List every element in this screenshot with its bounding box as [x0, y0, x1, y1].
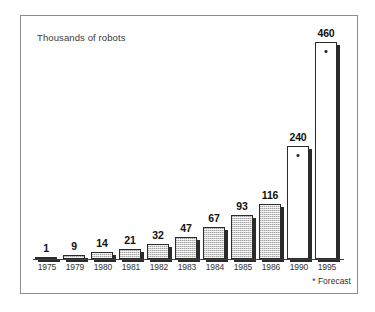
bar-1984[interactable]: 67 [203, 227, 225, 259]
chart-figure: Thousands of robots 19142132476793116•24… [0, 0, 375, 312]
x-tick-label-1983: 1983 [173, 262, 201, 272]
bar-value-label: 21 [124, 234, 135, 246]
x-tick-label-1979: 1979 [61, 262, 89, 272]
bar-slot-1980: 14 [89, 24, 117, 259]
bar-1990[interactable]: •240 [287, 146, 309, 259]
bar-body [203, 227, 225, 259]
bar-slot-1979: 9 [61, 24, 89, 259]
bar-body [91, 252, 113, 259]
bar-value-label: 93 [236, 200, 247, 212]
bar-body [231, 215, 253, 259]
bar-series: 19142132476793116•240•460 [33, 24, 344, 259]
bar-body [175, 237, 197, 259]
bar-body [119, 249, 141, 259]
x-tick-label-1980: 1980 [89, 262, 117, 272]
bar-1986[interactable]: 116 [259, 204, 281, 259]
bar-slot-1986: 116 [257, 24, 285, 259]
bar-value-label: 14 [96, 237, 107, 249]
x-tick-label-1995: 1995 [313, 262, 341, 272]
x-axis-tick-labels: 1975197919801981198219831984198519861990… [33, 262, 344, 276]
x-tick-label-1975: 1975 [33, 262, 61, 272]
bar-value-label: 32 [152, 229, 163, 241]
bar-body: • [315, 42, 337, 259]
bar-value-label: 240 [290, 131, 307, 143]
bar-slot-1983: 47 [173, 24, 201, 259]
bar-slot-1995: •460 [313, 24, 341, 259]
bar-value-label: 9 [71, 240, 77, 252]
bar-slot-1975: 1 [33, 24, 61, 259]
bar-body [147, 244, 169, 259]
x-tick-label-1990: 1990 [285, 262, 313, 272]
bar-slot-1981: 21 [117, 24, 145, 259]
bar-value-label: 116 [262, 189, 278, 201]
x-tick-label-1985: 1985 [229, 262, 257, 272]
bar-1985[interactable]: 93 [231, 215, 253, 259]
x-tick-label-1981: 1981 [117, 262, 145, 272]
bar-body: • [287, 146, 309, 259]
forecast-asterisk-icon: • [324, 49, 328, 53]
bar-value-label: 47 [180, 222, 191, 234]
forecast-footnote: * Forecast [312, 276, 351, 286]
bar-1981[interactable]: 21 [119, 249, 141, 259]
x-axis-baseline [33, 259, 344, 260]
x-tick-label-1982: 1982 [145, 262, 173, 272]
bar-slot-1990: •240 [285, 24, 313, 259]
bar-1983[interactable]: 47 [175, 237, 197, 259]
bar-slot-1984: 67 [201, 24, 229, 259]
x-tick-label-1986: 1986 [257, 262, 285, 272]
bar-1995[interactable]: •460 [315, 42, 337, 259]
bar-1980[interactable]: 14 [91, 252, 113, 259]
x-tick-label-1984: 1984 [201, 262, 229, 272]
bar-value-label: 67 [208, 212, 219, 224]
bar-1982[interactable]: 32 [147, 244, 169, 259]
bar-slot-1982: 32 [145, 24, 173, 259]
forecast-asterisk-icon: • [296, 153, 300, 157]
bar-value-label: 460 [318, 27, 335, 39]
bar-body [259, 204, 281, 259]
bar-value-label: 1 [43, 242, 49, 254]
bar-slot-1985: 93 [229, 24, 257, 259]
